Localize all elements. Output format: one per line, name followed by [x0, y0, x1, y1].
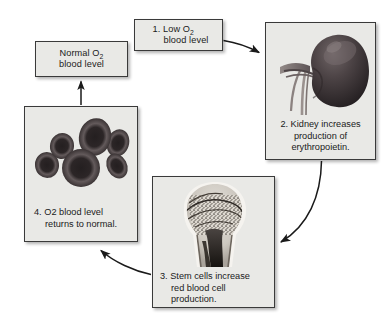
node-normal-label: Normal O2 blood level: [59, 48, 104, 70]
node-step3-stem-cells: 3. Stem cells increase red blood cell pr…: [152, 176, 275, 308]
node-step1-label: 1. Low O2 blood level: [148, 24, 208, 46]
diagram-canvas: Normal O2 blood level 1. Low O2 blood le…: [0, 0, 392, 318]
node-step2-caption: 2. Kidney increases production of erythr…: [266, 119, 375, 154]
node-step4-o2-returns-normal: 4. O2 blood level returns to normal.: [24, 106, 138, 242]
node-step1-low-o2: 1. Low O2 blood level: [134, 19, 223, 51]
kidney-illustration: [266, 27, 375, 115]
node-normal-o2-blood-level: Normal O2 blood level: [35, 41, 128, 77]
red-blood-cells-illustration: [25, 113, 137, 199]
arrow-step2-to-step3: [281, 161, 322, 242]
node-step3-caption: 3. Stem cells increase red blood cell pr…: [153, 271, 274, 306]
node-step4-caption: 4. O2 blood level returns to normal.: [25, 207, 137, 230]
arrow-step1-to-step2: [224, 41, 260, 53]
node-step2-kidney: 2. Kidney increases production of erythr…: [265, 22, 376, 160]
arrow-step3-to-step4: [101, 251, 151, 275]
bone-marrow-illustration: [153, 181, 274, 267]
